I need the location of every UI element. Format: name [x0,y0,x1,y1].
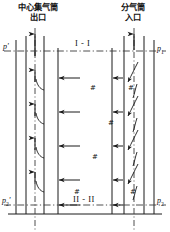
pressure-label-bottom-right: p2 [157,196,164,207]
pressure-label-top-right: p1 [157,44,164,55]
left-header-line1: 中心集气筒 [2,2,74,12]
hash-mark: # [92,153,98,161]
right-distributor-outflow-curves [128,62,138,200]
inner-partition-walls [58,48,112,214]
crossflow-arrows-right-column [113,78,123,205]
hash-mark: # [90,84,96,92]
pressure-bottom-right-sub: 2 [161,201,164,207]
left-header-line2: 出口 [2,12,74,22]
right-header-label: 分气筒 入口 [104,2,162,22]
left-collector-inflow-curves [36,79,44,192]
hash-mark: # [108,119,114,127]
pressure-label-top-left: p' [3,42,9,51]
flow-diagram-figure: 中心集气筒 出口 分气筒 入口 I - I II - II p' p1 p2' … [0,0,170,232]
pressure-bottom-left-prime: ' [9,196,11,205]
hash-mark: # [130,188,136,196]
pressure-top-right-sub: 1 [161,49,164,55]
right-header-line1: 分气筒 [104,2,162,12]
right-header-line2: 入口 [104,12,162,22]
vessel-outer-walls [8,40,162,214]
hash-mark: # [128,84,134,92]
hash-mark: # [74,188,80,196]
left-header-label: 中心集气筒 出口 [2,2,74,22]
section-label-top: I - I [75,38,90,48]
pressure-label-bottom-left: p2' [2,196,11,207]
crossflow-arrows-left-column [59,78,80,205]
